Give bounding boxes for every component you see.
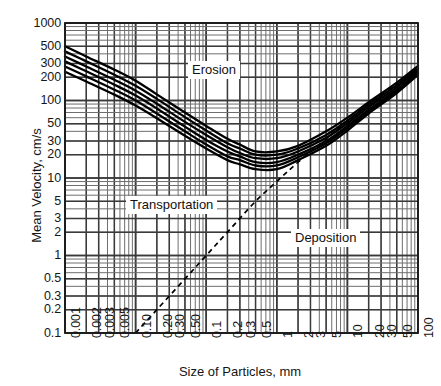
zone-label-deposition: Deposition [291, 229, 360, 247]
y-tick-label: 0.1 [44, 327, 61, 340]
zone-label-erosion: Erosion [188, 61, 240, 79]
y-tick-label: 3 [54, 212, 61, 225]
x-tick-label: 5 [331, 331, 344, 338]
x-tick-label: 3 [315, 331, 328, 338]
y-axis-title: Mean Velocity, cm/s [29, 106, 44, 266]
hjulstrom-diagram-figure: 10005003002001005030201053210.50.30.20.1… [0, 0, 441, 386]
y-tick-label: 1 [54, 249, 61, 262]
y-tick-label: 2 [54, 226, 61, 239]
x-tick-label: 0.002 [91, 307, 104, 338]
zone-label-transportation: Transportation [126, 196, 217, 214]
y-tick-label: 0.2 [44, 303, 61, 316]
x-tick-label: 100 [423, 317, 436, 338]
y-tick-label: 500 [40, 40, 61, 53]
x-tick-label: 0.1 [211, 321, 224, 338]
x-tick-label: 10 [352, 324, 365, 338]
y-tick-label: 1000 [34, 17, 61, 30]
x-tick-label: 0.10 [141, 314, 154, 338]
y-tick-label: 300 [40, 57, 61, 70]
y-tick-label: 50 [47, 117, 61, 130]
x-tick-label: 0.30 [174, 314, 187, 338]
y-tick-label: 20 [47, 148, 61, 161]
x-axis-title: Size of Particles, mm [150, 364, 330, 379]
x-tick-label: 1 [282, 331, 295, 338]
x-tick-label: 0.005 [119, 307, 132, 338]
y-tick-label: 10 [47, 172, 61, 185]
x-tick-label: 0.3 [245, 321, 258, 338]
y-tick-label: 100 [40, 94, 61, 107]
x-tick-label: 50 [402, 324, 415, 338]
x-tick-label: 0.003 [104, 307, 117, 338]
y-tick-label: 30 [47, 135, 61, 148]
x-tick-label: 30 [386, 324, 399, 338]
x-tick-label: 0.50 [190, 314, 203, 338]
x-tick-label: 0.5 [261, 321, 274, 338]
y-tick-label: 0.5 [44, 272, 61, 285]
y-tick-label: 5 [54, 195, 61, 208]
y-tick-label: 200 [40, 71, 61, 84]
y-tick-label: 0.3 [44, 290, 61, 303]
x-tick-label: 0.001 [70, 307, 83, 338]
